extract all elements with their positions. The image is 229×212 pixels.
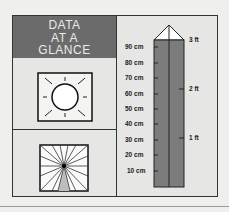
tick-1ft: 1 ft (189, 134, 199, 141)
tick-30cm: 30 cm (125, 136, 143, 143)
tick-3ft: 3 ft (189, 36, 199, 43)
tick-90cm: 90 cm (125, 43, 143, 50)
radial-sunburst-icon (39, 144, 89, 192)
left-column: DATA AT A GLANCE (13, 16, 117, 196)
tick-60cm: 60 cm (125, 90, 143, 97)
right-column: 90 cm 80 cm 70 cm 60 cm 50 cm 40 cm 30 c… (117, 16, 217, 196)
bottom-rule (0, 206, 229, 207)
panel-title: DATA AT A GLANCE (13, 16, 116, 58)
divider (13, 129, 116, 130)
tick-10cm: 10 cm (127, 167, 145, 174)
tick-70cm: 70 cm (125, 74, 143, 81)
title-line-1: DATA (13, 19, 116, 32)
title-line-3: GLANCE (13, 44, 116, 57)
tick-2ft: 2 ft (189, 85, 199, 92)
data-at-a-glance-panel: DATA AT A GLANCE (12, 15, 218, 197)
sun-icon (37, 72, 93, 122)
tick-80cm: 80 cm (125, 59, 143, 66)
tick-40cm: 40 cm (125, 120, 143, 127)
tick-20cm: 20 cm (125, 151, 143, 158)
tick-50cm: 50 cm (125, 105, 143, 112)
